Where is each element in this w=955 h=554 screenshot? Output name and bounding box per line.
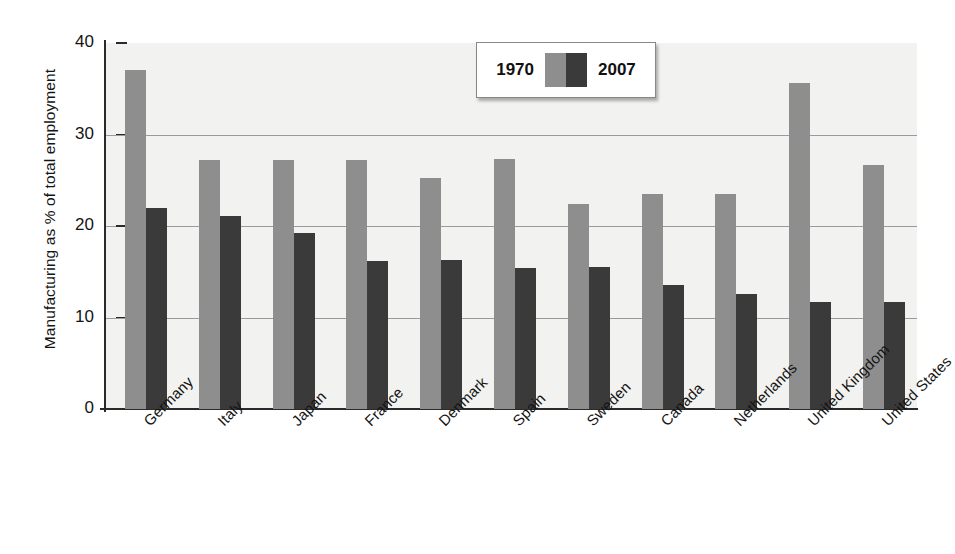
category-label-germany: Germany bbox=[140, 373, 196, 429]
chart-legend: 1970 2007 bbox=[476, 42, 656, 98]
category-label-japan: Japan bbox=[288, 388, 329, 429]
category-label-sweden: Sweden bbox=[583, 378, 634, 429]
category-label-united-states: United States bbox=[878, 352, 955, 429]
category-label-denmark: Denmark bbox=[435, 373, 491, 429]
legend-swatch-1970 bbox=[545, 53, 566, 87]
legend-label-1970: 1970 bbox=[485, 60, 545, 80]
category-label-canada: Canada bbox=[657, 379, 707, 429]
category-label-netherlands: Netherlands bbox=[730, 359, 800, 429]
category-label-france: France bbox=[361, 384, 406, 429]
legend-label-2007: 2007 bbox=[587, 60, 647, 80]
category-label-spain: Spain bbox=[509, 390, 549, 430]
legend-swatch-2007 bbox=[566, 53, 587, 87]
category-label-italy: Italy bbox=[214, 397, 246, 429]
